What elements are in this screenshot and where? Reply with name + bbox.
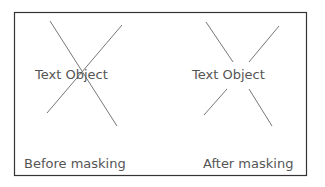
diagram-frame (15, 13, 307, 176)
after-masking-caption: After masking (203, 156, 293, 171)
before-masking-caption: Before masking (24, 156, 126, 171)
text-object-label: Text Object (34, 67, 108, 82)
text-object-label: Text Object (191, 67, 265, 82)
masking-diagram: Text Object Before masking Text Object A… (0, 0, 325, 187)
